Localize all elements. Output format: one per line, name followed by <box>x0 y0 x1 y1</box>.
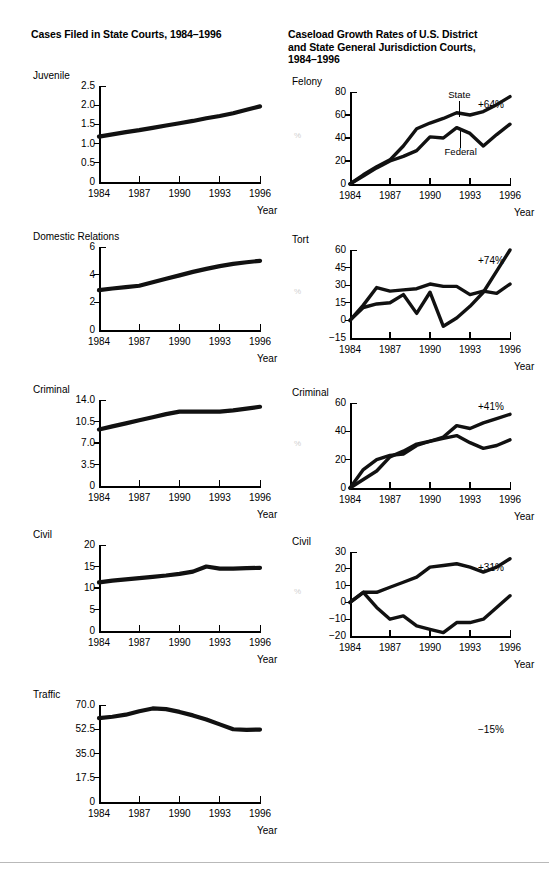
y-axis-title: % <box>294 287 301 296</box>
data-line-state <box>350 414 510 488</box>
chart-title-juvenile: Juvenile <box>33 70 70 81</box>
data-line-federal <box>350 592 510 632</box>
chart-criminal-growth: Criminal020406019841987199019931996Year% <box>292 403 549 548</box>
plot-svg <box>33 247 270 338</box>
x-tick-label: 1984 <box>88 809 110 819</box>
plot-svg <box>292 92 520 192</box>
x-tick-label: 1987 <box>379 345 401 355</box>
x-tick-label: 1990 <box>168 493 190 503</box>
chart-domestic-relations: Domestic Relations0246198419871990199319… <box>33 247 330 390</box>
chart-traffic: Traffic017.535.052.570.01984198719901993… <box>33 705 330 862</box>
x-tick-label: 1984 <box>339 495 361 505</box>
x-tick-label: 1984 <box>339 643 361 653</box>
chart-title-civil-growth: Civil <box>292 536 311 547</box>
plot-svg <box>292 403 520 496</box>
x-tick-label: 1984 <box>88 493 110 503</box>
x-tick-label: 1987 <box>379 191 401 201</box>
data-line <box>99 708 260 729</box>
chart-title-domestic-relations: Domestic Relations <box>33 231 119 242</box>
x-axis-title: Year <box>257 206 277 216</box>
chart-felony-growth: Felony02040608019841987199019931996Year%… <box>292 92 549 244</box>
chart-civil-growth: Civil−20−10010203019841987199019931996Ye… <box>292 552 549 696</box>
chart-tort-growth: Tort−1501530456019841987199019931996Year… <box>292 250 549 398</box>
x-axis-title: Year <box>514 660 534 670</box>
chart-title-civil-state: Civil <box>33 529 52 540</box>
x-tick-label: 1990 <box>168 337 190 347</box>
x-tick-label: 1993 <box>209 638 231 648</box>
x-tick-label: 1993 <box>459 495 481 505</box>
y-axis-title: % <box>294 587 301 596</box>
data-line <box>99 567 260 583</box>
chart-title-tort-growth: Tort <box>292 234 309 245</box>
x-tick-label: 1984 <box>339 345 361 355</box>
x-tick-label: 1993 <box>209 493 231 503</box>
chart-civil-state: Civil0510152019841987199019931996+31%Yea… <box>33 545 330 691</box>
x-tick-label: 1990 <box>419 191 441 201</box>
left-column-title: Cases Filed in State Courts, 1984–1996 <box>31 28 271 41</box>
x-tick-label: 1990 <box>419 495 441 505</box>
x-tick-label: 1990 <box>168 189 190 199</box>
x-tick-label: 1987 <box>128 337 150 347</box>
x-tick-label: 1993 <box>209 809 231 819</box>
x-tick-label: 1996 <box>249 337 271 347</box>
y-axis-title: % <box>294 131 301 140</box>
chart-title-criminal-growth: Criminal <box>292 387 329 398</box>
plot-svg <box>33 400 270 494</box>
x-tick-label: 1996 <box>249 638 271 648</box>
x-tick-label: 1996 <box>249 809 271 819</box>
data-line <box>99 407 260 430</box>
x-tick-label: 1996 <box>249 189 271 199</box>
x-tick-label: 1984 <box>339 191 361 201</box>
x-axis-title: Year <box>257 826 277 836</box>
x-tick-label: 1993 <box>209 189 231 199</box>
x-tick-label: 1990 <box>168 809 190 819</box>
x-tick-label: 1996 <box>499 495 521 505</box>
chart-juvenile: Juvenile00.51.01.52.02.51984198719901993… <box>33 86 330 242</box>
x-axis-title: Year <box>257 354 277 364</box>
data-line <box>99 106 260 136</box>
series-leader-line-federal <box>460 131 461 148</box>
x-tick-label: 1990 <box>419 643 441 653</box>
chart-title-traffic: Traffic <box>33 689 60 700</box>
x-tick-label: 1990 <box>419 345 441 355</box>
y-axis-title: % <box>294 439 301 448</box>
x-tick-label: 1990 <box>168 638 190 648</box>
x-tick-label: 1987 <box>379 495 401 505</box>
x-axis-title: Year <box>514 512 534 522</box>
page-root: Cases Filed in State Courts, 1984–1996 C… <box>0 0 549 878</box>
x-tick-label: 1993 <box>459 345 481 355</box>
x-tick-label: 1993 <box>459 643 481 653</box>
x-tick-label: 1984 <box>88 189 110 199</box>
series-label-state: State <box>448 90 470 100</box>
x-axis-title: Year <box>514 208 534 218</box>
x-tick-label: 1996 <box>499 643 521 653</box>
x-tick-label: 1987 <box>128 189 150 199</box>
x-tick-label: 1984 <box>88 638 110 648</box>
x-tick-label: 1987 <box>128 493 150 503</box>
chart-title-criminal-state: Criminal <box>33 384 70 395</box>
x-axis-title: Year <box>514 362 534 372</box>
x-tick-label: 1987 <box>379 643 401 653</box>
data-line <box>99 261 260 290</box>
x-tick-label: 1996 <box>499 345 521 355</box>
plot-svg <box>33 705 270 810</box>
x-axis-title: Year <box>257 655 277 665</box>
chart-title-felony-growth: Felony <box>292 76 322 87</box>
x-tick-label: 1996 <box>249 493 271 503</box>
series-leader-line-state <box>459 101 460 117</box>
plot-svg <box>292 552 520 644</box>
plot-svg <box>292 250 520 346</box>
growth-annotation: −15% <box>478 725 504 735</box>
x-tick-label: 1987 <box>128 809 150 819</box>
x-tick-label: 1993 <box>459 191 481 201</box>
right-column-title: Caseload Growth Rates of U.S. District a… <box>288 28 538 66</box>
plot-svg <box>33 86 270 190</box>
x-tick-label: 1993 <box>209 337 231 347</box>
data-line-federal <box>350 250 510 326</box>
data-line-state <box>350 559 510 603</box>
footer-divider <box>0 862 549 863</box>
plot-svg <box>33 545 270 639</box>
series-label-federal: Federal <box>445 147 477 157</box>
x-axis-title: Year <box>257 510 277 520</box>
data-line-federal <box>350 124 510 184</box>
